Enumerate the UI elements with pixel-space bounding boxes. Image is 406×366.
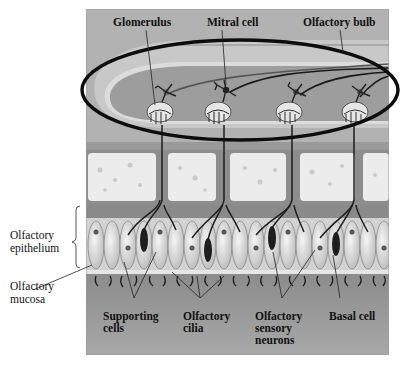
label-olfactory-epithelium: Olfactory epithelium [10, 229, 59, 255]
label-olfactory-mucosa: Olfactory mucosa [10, 280, 54, 306]
diagram-panel [86, 9, 392, 355]
label-olfactory-sensory-neurons: Olfactory sensory neurons [255, 310, 302, 346]
label-supporting-cells: Supporting cells [103, 310, 159, 334]
label-basal-cell: Basal cell [329, 310, 375, 322]
label-glomerulus: Glomerulus [113, 16, 171, 28]
olfactory-epithelium-layer [86, 218, 392, 270]
label-olfactory-bulb: Olfactory bulb [303, 16, 376, 28]
cribriform-plate [86, 150, 389, 206]
epithelium-brace [72, 206, 80, 268]
label-mitral-cell: Mitral cell [207, 16, 258, 28]
label-olfactory-cilia: Olfactory cilia [183, 310, 230, 334]
